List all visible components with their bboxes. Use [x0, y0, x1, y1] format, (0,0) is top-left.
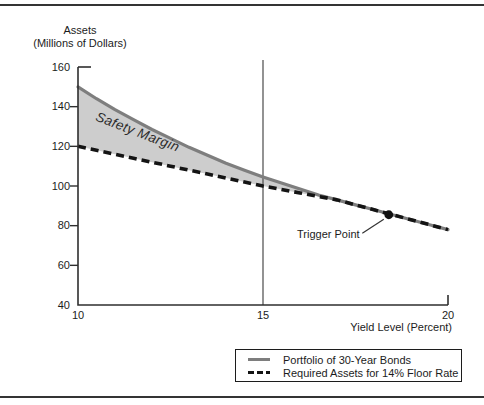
- legend-row-portfolio: Portfolio of 30-Year Bonds: [236, 353, 461, 366]
- y-tick-label-60: 60: [36, 259, 70, 271]
- y-tick-label-80: 80: [36, 219, 70, 231]
- trigger-point-dot: [384, 210, 393, 219]
- trigger-pointer-line: [362, 219, 384, 233]
- legend-row-required-assets: Required Assets for 14% Floor Rate: [236, 366, 461, 379]
- y-tick-label-120: 120: [36, 140, 70, 152]
- y-tick-label-100: 100: [36, 180, 70, 192]
- x-tick-label-10: 10: [61, 309, 95, 321]
- x-tick-label-20: 20: [431, 309, 465, 321]
- figure: Assets (Millions of Dollars) 16014012010…: [0, 0, 484, 405]
- solid-line-swatch: [248, 358, 270, 361]
- y-tick-label-160: 160: [36, 61, 70, 73]
- bottom-rule: [0, 396, 484, 398]
- safety-margin-region: [78, 87, 337, 200]
- x-tick-label-15: 15: [246, 309, 280, 321]
- legend-label-portfolio: Portfolio of 30-Year Bonds: [283, 354, 411, 366]
- x-axis-title: Yield Level (Percent): [280, 321, 452, 333]
- legend-label-required-assets: Required Assets for 14% Floor Rate: [283, 367, 458, 379]
- plot-area: [0, 0, 484, 405]
- trigger-point-label: Trigger Point: [297, 228, 360, 240]
- y-tick-label-140: 140: [36, 100, 70, 112]
- dashed-line-swatch: [248, 371, 270, 375]
- legend: Portfolio of 30-Year Bonds Required Asse…: [235, 349, 462, 382]
